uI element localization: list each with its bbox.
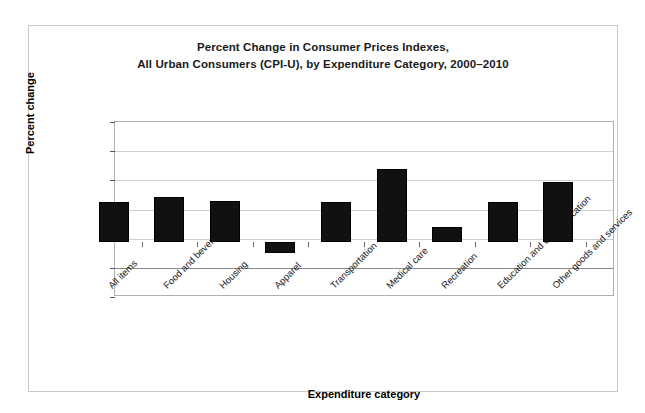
- chart-title-line-2: All Urban Consumers (CPI-U), by Expendit…: [29, 56, 617, 73]
- bar: [543, 182, 573, 242]
- y-axis-title: Percent change: [24, 72, 36, 154]
- y-tick-mark: [110, 268, 115, 269]
- bar: [210, 201, 240, 242]
- bar: [154, 197, 184, 242]
- x-tick-mark: [253, 242, 254, 247]
- bar: [377, 169, 407, 242]
- y-tick-mark: [110, 151, 115, 152]
- gridline: [115, 180, 613, 181]
- y-tick-mark: [110, 180, 115, 181]
- bar: [432, 227, 462, 242]
- chart-title: Percent Change in Consumer Prices Indexe…: [29, 39, 617, 73]
- y-tick-mark: [110, 122, 115, 123]
- gridline: [115, 151, 613, 152]
- bar: [321, 202, 351, 241]
- bar: [99, 202, 129, 241]
- gridline: [115, 210, 613, 211]
- x-tick-mark: [475, 242, 476, 247]
- chart-frame: Percent Change in Consumer Prices Indexe…: [28, 25, 618, 392]
- x-tick-mark: [142, 242, 143, 247]
- chart-title-line-1: Percent Change in Consumer Prices Indexe…: [29, 39, 617, 56]
- x-tick-mark: [308, 242, 309, 247]
- bar: [265, 242, 295, 254]
- bar: [488, 202, 518, 241]
- x-axis-title: Expenditure category: [114, 388, 614, 400]
- y-tick-mark: [110, 297, 115, 298]
